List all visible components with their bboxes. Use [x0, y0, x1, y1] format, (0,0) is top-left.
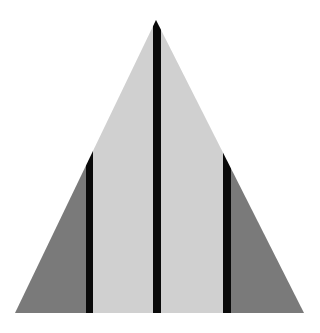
- diagram-canvas: [0, 0, 320, 333]
- right-bar: [223, 20, 231, 313]
- striped-triangle: [0, 0, 320, 333]
- center-bar: [153, 20, 161, 313]
- right-dark-region: [231, 20, 320, 313]
- left-bar: [86, 20, 93, 313]
- left-dark-region: [0, 20, 86, 313]
